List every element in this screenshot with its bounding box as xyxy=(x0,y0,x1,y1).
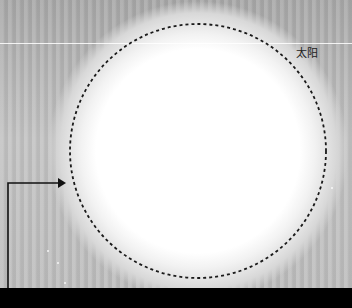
solar-image: 太阳 xyxy=(0,0,352,308)
bottom-black-band xyxy=(0,288,352,308)
sun-label: 太阳 xyxy=(296,44,318,60)
